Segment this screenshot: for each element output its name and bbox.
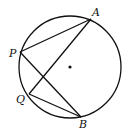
center-dot (68, 65, 71, 68)
segment-QA (29, 19, 91, 94)
segment-PB (20, 52, 81, 117)
label-B: B (78, 118, 87, 130)
geometry-diagram: A P Q B (0, 0, 132, 130)
label-P: P (8, 47, 17, 60)
label-Q: Q (16, 93, 25, 106)
label-A: A (91, 6, 100, 19)
